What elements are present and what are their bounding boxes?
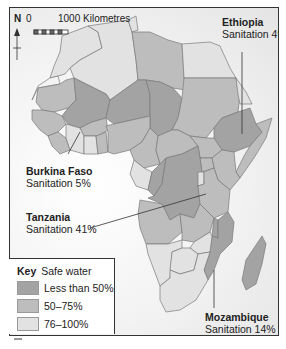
scale-label: 1000 Kilometres	[58, 13, 130, 24]
scale-start: 0	[26, 13, 32, 24]
callout-tanzania: Tanzania Sanitation 41%	[26, 211, 97, 235]
sanitation-value: Sanitation 14%	[205, 323, 276, 335]
key-item-76-100: 76–100%	[17, 317, 88, 331]
country-name: Mozambique	[205, 311, 276, 323]
scale-bar-icon	[34, 30, 68, 34]
country-name: Burkina Faso	[26, 165, 93, 177]
key-item-label: 50–75%	[44, 300, 83, 312]
key-item-less-than-50: Less than 50%	[17, 281, 113, 295]
key-title: KeySafe water	[17, 265, 91, 277]
sanitation-value: Sanitation 4%	[222, 28, 279, 40]
country-name: Ethiopia	[222, 16, 279, 28]
key-item-label: Less than 50%	[44, 282, 113, 294]
key-item-50-75: 50–75%	[17, 299, 83, 313]
north-arrow-icon	[13, 28, 21, 60]
north-label: N	[14, 13, 21, 24]
callout-mozambique: Mozambique Sanitation 14%	[205, 311, 276, 335]
page-mark	[14, 338, 22, 340]
sanitation-value: Sanitation 5%	[26, 177, 93, 189]
key-heading: Key	[17, 265, 36, 277]
swatch-50-75	[17, 299, 39, 313]
swatch-76-100	[17, 317, 39, 331]
callout-ethiopia: Ethiopia Sanitation 4%	[222, 16, 279, 40]
map-key: KeySafe water Less than 50% 50–75% 76–10…	[9, 258, 115, 334]
egypt	[182, 42, 236, 78]
sanitation-value: Sanitation 41%	[26, 223, 97, 235]
key-subtitle: Safe water	[41, 265, 91, 277]
country-name: Tanzania	[26, 211, 97, 223]
madagascar	[242, 236, 266, 290]
callout-burkina-faso: Burkina Faso Sanitation 5%	[26, 165, 93, 189]
swatch-less-than-50	[17, 281, 39, 295]
key-item-label: 76–100%	[44, 318, 88, 330]
